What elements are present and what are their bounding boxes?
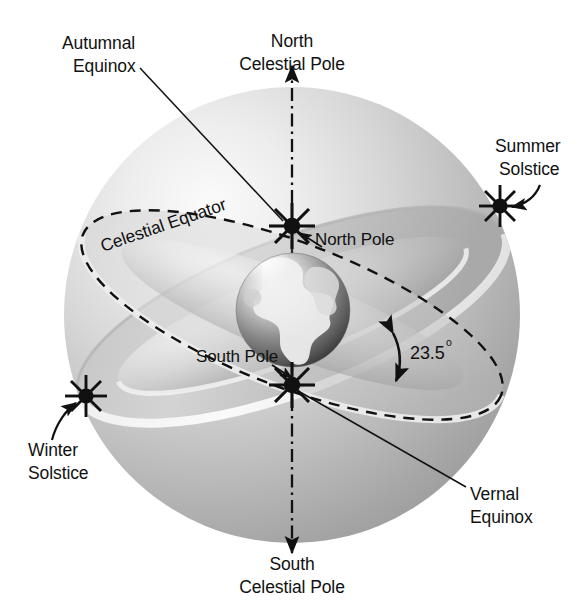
label-winter-solstice: Winter [28, 440, 78, 460]
label-vernal-equinox-line2: Equinox [470, 507, 533, 527]
label-summer-solstice-line2: Solstice [499, 159, 559, 179]
autumnal-equinox-marker[interactable] [269, 203, 315, 249]
label-winter-solstice-line2: Solstice [28, 463, 88, 483]
diagram-canvas: Autumnal Equinox North Celestial Pole Su… [0, 0, 585, 614]
label-obliquity-angle: 23.5 [410, 343, 445, 363]
winter-solstice-marker[interactable] [65, 375, 107, 417]
label-autumnal-equinox: Autumnal [62, 33, 135, 53]
label-north-pole: North Pole [315, 230, 394, 249]
label-north-celestial-pole-line2: Celestial Pole [239, 54, 345, 74]
label-vernal-equinox: Vernal [470, 484, 519, 504]
label-south-celestial-pole: South [269, 554, 314, 574]
label-south-pole: South Pole [196, 347, 278, 366]
label-south-celestial-pole-line2: Celestial Pole [239, 577, 345, 597]
celestial-sphere-diagram: Autumnal Equinox North Celestial Pole Su… [0, 0, 585, 614]
label-obliquity-degree-symbol: o [446, 336, 452, 348]
label-summer-solstice: Summer [495, 136, 561, 156]
label-north-celestial-pole: North [271, 31, 313, 51]
label-autumnal-equinox-line2: Equinox [73, 56, 136, 76]
summer-solstice-marker[interactable] [479, 185, 521, 227]
vernal-equinox-marker[interactable] [269, 362, 315, 408]
